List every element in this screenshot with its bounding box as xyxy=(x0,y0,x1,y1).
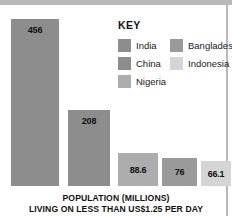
legend-label-bangladesh: Bangladesh xyxy=(188,40,232,51)
bar-india: 456 xyxy=(11,19,59,186)
legend-swatch-india xyxy=(118,39,131,52)
bar-china: 208 xyxy=(68,110,110,186)
legend-title: KEY xyxy=(118,19,228,31)
legend-item-india: India xyxy=(118,36,170,54)
legend-label-china: China xyxy=(136,58,161,69)
bar-value-india: 456 xyxy=(11,25,59,35)
legend-swatch-bangladesh xyxy=(170,39,183,52)
bar-nigeria: 88.6 xyxy=(118,153,158,186)
legend-item-indonesia: Indonesia xyxy=(170,54,228,72)
legend-swatch-china xyxy=(118,57,131,70)
legend-item-china: China xyxy=(118,54,170,72)
bar-chart-plot-area: 456 208 88.6 76 66.1 KEY India xyxy=(0,5,232,216)
legend-column-right: Bangladesh Indonesia xyxy=(170,36,228,90)
legend-column-left: India China Nigeria xyxy=(118,36,170,90)
bar-value-indonesia: 66.1 xyxy=(201,168,231,178)
legend-label-india: India xyxy=(136,40,157,51)
chart-caption: POPULATION (MILLIONS) LIVING ON LESS THA… xyxy=(0,193,232,215)
legend-label-indonesia: Indonesia xyxy=(188,58,229,69)
legend-swatch-nigeria xyxy=(118,75,131,88)
bar-indonesia: 66.1 xyxy=(201,161,231,186)
legend-item-bangladesh: Bangladesh xyxy=(170,36,228,54)
legend-item-nigeria: Nigeria xyxy=(118,72,170,90)
caption-line-1: POPULATION (MILLIONS) xyxy=(0,193,232,204)
legend-swatch-indonesia xyxy=(170,57,183,70)
chart-figure: 456 208 88.6 76 66.1 KEY India xyxy=(0,0,232,216)
bar-value-china: 208 xyxy=(68,116,110,126)
chart-legend: KEY India China Nigeria xyxy=(118,19,228,90)
bar-bangladesh: 76 xyxy=(162,158,197,186)
legend-label-nigeria: Nigeria xyxy=(136,76,166,87)
caption-line-2: LIVING ON LESS THAN US$1.25 PER DAY xyxy=(0,204,232,215)
bar-value-bangladesh: 76 xyxy=(162,167,197,177)
bar-value-nigeria: 88.6 xyxy=(118,164,158,174)
